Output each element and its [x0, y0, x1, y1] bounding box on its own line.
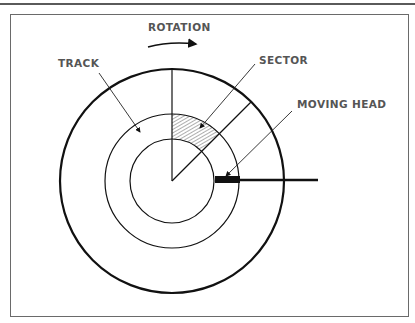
sector-line-diagonal [172, 102, 251, 181]
sector-label: SECTOR [259, 54, 308, 66]
rotation-arrow [148, 43, 196, 47]
moving-head-block [215, 176, 240, 183]
rotation-label: ROTATION [148, 21, 211, 33]
moving-head-label: MOVING HEAD [297, 98, 386, 110]
disk-diagram [0, 0, 415, 323]
track-label: TRACK [58, 57, 99, 69]
sector-leader [200, 64, 255, 128]
